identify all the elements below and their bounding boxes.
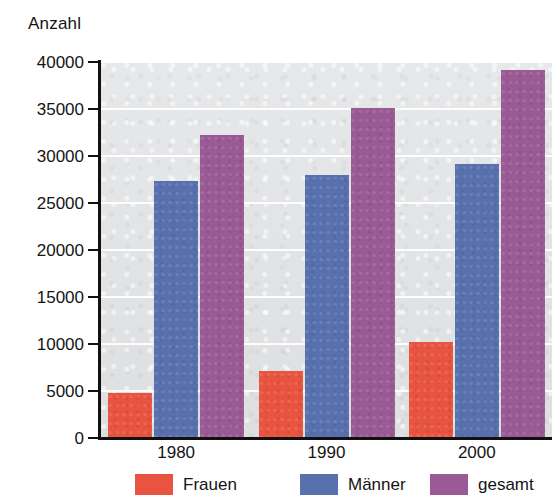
- legend-item-gesamt[interactable]: gesamt: [430, 474, 534, 495]
- x-axis-line: [98, 437, 552, 440]
- bar-gesamt-1990: [351, 108, 395, 438]
- bar-texture: [455, 164, 499, 438]
- gridline: [101, 155, 552, 157]
- bar-texture: [305, 175, 349, 438]
- y-tick-label: 5000: [46, 383, 84, 400]
- chart-legend: FrauenMännergesamt: [0, 474, 552, 498]
- plot-area: [101, 62, 552, 438]
- bar-texture: [351, 108, 395, 438]
- legend-label: Frauen: [183, 476, 237, 493]
- bar-manner-1990: [305, 175, 349, 438]
- y-tick-mark: [88, 296, 100, 298]
- bar-texture: [200, 135, 244, 438]
- bar-manner-1980: [154, 181, 198, 438]
- y-tick-label: 25000: [37, 195, 84, 212]
- y-tick-mark: [88, 343, 100, 345]
- y-tick-label: 0: [75, 430, 84, 447]
- y-tick-mark: [88, 249, 100, 251]
- bar-frauen-2000: [409, 342, 453, 438]
- bar-frauen-1980: [108, 393, 152, 438]
- y-tick-mark: [88, 437, 100, 439]
- bar-texture: [501, 70, 545, 438]
- legend-label: Männer: [348, 476, 406, 493]
- legend-item-frauen[interactable]: Frauen: [135, 474, 237, 495]
- y-tick-mark: [88, 202, 100, 204]
- bar-texture: [409, 342, 453, 438]
- bar-gesamt-1980: [200, 135, 244, 438]
- x-tick-label: 2000: [402, 443, 552, 463]
- x-tick-label: 1980: [101, 443, 251, 463]
- x-tick-label: 1990: [251, 443, 401, 463]
- legend-swatch: [300, 474, 338, 495]
- y-tick-label: 10000: [37, 336, 84, 353]
- y-tick-label: 40000: [37, 54, 84, 71]
- y-axis-title: Anzahl: [28, 14, 81, 34]
- legend-swatch: [135, 474, 173, 495]
- y-tick-mark: [88, 61, 100, 63]
- legend-label: gesamt: [478, 476, 534, 493]
- legend-swatch: [430, 474, 468, 495]
- legend-item-manner[interactable]: Männer: [300, 474, 406, 495]
- bar-gesamt-2000: [501, 70, 545, 438]
- gridline: [101, 108, 552, 110]
- bar-texture: [259, 371, 303, 438]
- bar-manner-2000: [455, 164, 499, 438]
- y-tick-label: 30000: [37, 148, 84, 165]
- y-tick-mark: [88, 390, 100, 392]
- y-tick-label: 15000: [37, 289, 84, 306]
- bar-chart-figure: Anzahl 400003500030000250002000015000100…: [0, 0, 552, 498]
- y-tick-mark: [88, 155, 100, 157]
- y-tick-mark: [88, 108, 100, 110]
- y-tick-label: 20000: [37, 242, 84, 259]
- bar-texture: [108, 393, 152, 438]
- gridline: [101, 62, 552, 63]
- y-tick-label: 35000: [37, 101, 84, 118]
- bar-texture: [154, 181, 198, 438]
- bar-frauen-1990: [259, 371, 303, 438]
